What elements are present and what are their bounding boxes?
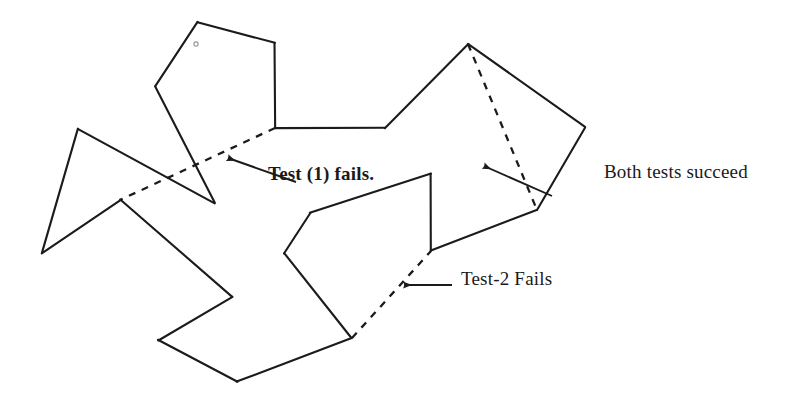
polygon-edge — [42, 129, 78, 253]
polygon-edge — [284, 253, 351, 338]
polygon-diagram-svg — [0, 0, 800, 405]
polygon-diagonal-dashed — [352, 251, 431, 338]
polygon-edge — [385, 44, 468, 128]
polygon-edge — [155, 86, 215, 202]
polygon-edge — [275, 43, 276, 128]
polygon-edge — [431, 210, 537, 250]
annotation-label-test2-fails: Test-2 Fails — [461, 269, 552, 288]
figure-canvas: Test (1) fails. Both tests succeed Test-… — [0, 0, 800, 405]
leader-arrow-both — [484, 166, 552, 196]
annotation-label-test1-fails: Test (1) fails. — [268, 164, 374, 183]
polygon-solid-edges — [42, 22, 585, 382]
polygon-edge — [155, 22, 197, 86]
annotation-label-both-tests-succeed: Both tests succeed — [604, 162, 748, 181]
polygon-dashed-chords — [120, 44, 537, 338]
polygon-edge — [284, 213, 311, 254]
polygon-edge — [120, 200, 232, 297]
interior-dot-marker — [194, 42, 198, 46]
polygon-edge — [42, 200, 121, 253]
polygon-edge — [237, 338, 352, 382]
polygon-edge — [158, 297, 232, 341]
polygon-edge — [537, 127, 585, 209]
polygon-edge — [197, 22, 274, 43]
polygon-edge — [158, 340, 238, 382]
